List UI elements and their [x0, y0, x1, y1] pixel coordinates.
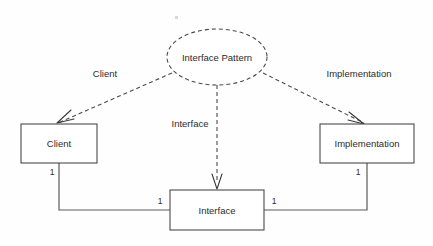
class-box-implementation[interactable]: Implementation — [320, 124, 414, 163]
class-box-interface[interactable]: Interface — [170, 190, 264, 230]
class-box-client[interactable]: Client — [21, 124, 97, 163]
multiplicity-implementation-target: 1 — [272, 196, 277, 206]
multiplicity-client-source: 1 — [50, 167, 55, 177]
role-edge-client-line — [58, 73, 172, 123]
role-edge-implementation-line — [263, 73, 364, 123]
arrowhead-client — [57, 110, 74, 123]
scan-speck-artifact — [175, 16, 178, 19]
role-edge-interface — [212, 85, 222, 189]
role-edge-client — [57, 73, 172, 123]
diagram-canvas: Interface Pattern Client Implementation … — [0, 0, 433, 246]
role-edge-implementation — [263, 73, 364, 124]
multiplicity-implementation-source: 1 — [356, 167, 361, 177]
pattern-ellipse-label: Interface Pattern — [182, 52, 252, 63]
multiplicity-client-target: 1 — [158, 196, 163, 206]
class-box-interface-label: Interface — [199, 205, 236, 216]
role-label-interface: Interface — [172, 118, 209, 129]
uml-interface-pattern-diagram: Interface Pattern Client Implementation … — [0, 0, 433, 246]
role-label-client: Client — [93, 68, 118, 79]
role-label-implementation: Implementation — [327, 68, 392, 79]
association-implementation-interface-line — [264, 163, 367, 210]
arrowhead-implementation — [348, 112, 364, 124]
class-box-implementation-label: Implementation — [335, 138, 400, 149]
association-client-interface-line — [59, 163, 170, 210]
class-box-client-label: Client — [47, 138, 72, 149]
